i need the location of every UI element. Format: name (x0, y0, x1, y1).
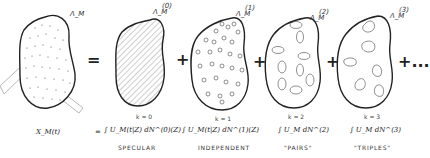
order-k0: (0) (162, 2, 172, 10)
region-k0 (116, 19, 165, 106)
region-k1 (191, 18, 248, 110)
plus-symbol-2: + (253, 52, 266, 71)
caption-independent: INDEPENDENT (198, 144, 250, 151)
order-k3: (3) (399, 6, 409, 14)
k-label-0: k = 0 (136, 113, 152, 120)
formula-k1: ∫ U_M(t|Z) dN^(1)(Z) (182, 126, 259, 134)
lhs-formula: X_M(t) (36, 128, 60, 136)
caption-specular: SPECULAR (118, 144, 156, 151)
main-region (0, 16, 83, 113)
region-k3 (337, 16, 392, 108)
continuation-symbol: +... (398, 52, 430, 71)
plus-symbol-3: + (326, 52, 339, 71)
k-label-2: k = 2 (288, 113, 304, 120)
formula-equals: = (95, 128, 101, 136)
equals-symbol: = (87, 50, 100, 69)
main-region-label: Λ_M (70, 10, 84, 18)
plus-symbol-1: + (176, 50, 189, 69)
formula-k2: ∫ U_M dN^(2) (278, 126, 329, 134)
order-k1: (1) (245, 4, 255, 12)
order-k2: (2) (319, 8, 329, 16)
k-label-3: k = 3 (364, 113, 380, 120)
formula-k3: ∫ U_M dN^(3) (350, 126, 401, 134)
caption-triples: "TRIPLES" (354, 144, 391, 151)
region-k2 (265, 18, 320, 108)
k-label-1: k = 1 (215, 115, 231, 122)
formula-k0: ∫ U_M(t|Z) dN^(0)(Z) (104, 126, 181, 134)
caption-pairs: "PAIRS" (284, 144, 312, 151)
